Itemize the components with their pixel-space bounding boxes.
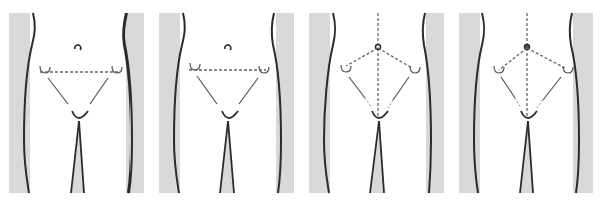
panel-1 (0, 0, 150, 206)
panel-2 (150, 0, 300, 206)
panel-1-drawing (0, 0, 150, 206)
panel-3-drawing (300, 0, 450, 206)
panel-4 (450, 0, 600, 206)
anatomical-figure (0, 0, 601, 206)
panel-3 (300, 0, 450, 206)
panel-2-drawing (150, 0, 300, 206)
panel-4-drawing (450, 0, 601, 206)
